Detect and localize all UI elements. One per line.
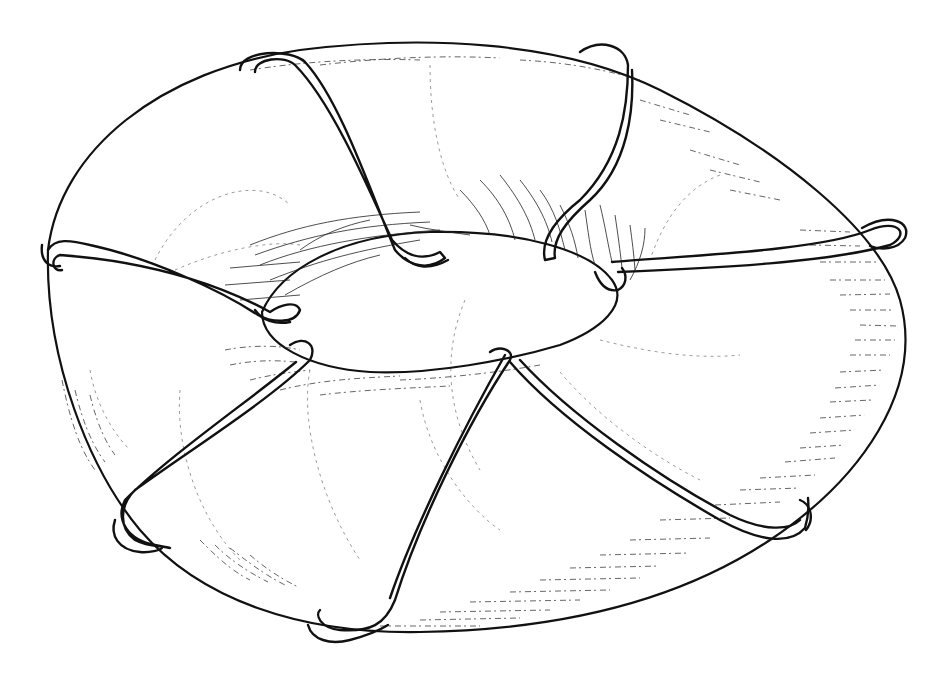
right-edge-hatching [640,100,898,505]
lower-left-hatching [62,57,640,588]
coil-top-right [544,45,632,260]
coil-bottom-left [122,341,313,548]
coil-bottom-center [318,349,511,631]
inner-hole-top-hatching [225,175,645,300]
coil-right [612,226,900,272]
bottom-edge-hatching [380,518,730,626]
surface-contours [90,65,740,560]
coil-loop-details [42,220,907,642]
torus-outer-outline [48,43,906,633]
coil-bottom-right [510,360,808,539]
coil-left [48,241,300,321]
toroidal-coil-illustration [0,0,934,673]
coil-windings [48,45,900,631]
torus-drawing [0,0,934,673]
